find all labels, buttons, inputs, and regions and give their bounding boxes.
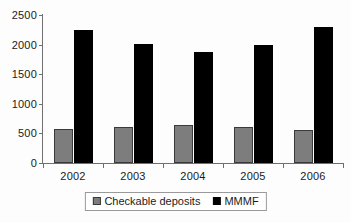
bar xyxy=(254,45,273,163)
y-tick-mark xyxy=(39,104,43,105)
bar xyxy=(314,27,333,163)
x-axis-line xyxy=(42,163,344,164)
bar xyxy=(234,127,253,163)
legend-swatch-icon xyxy=(92,197,100,205)
bar xyxy=(294,130,313,163)
x-tick-mark xyxy=(103,163,104,168)
bar xyxy=(194,52,213,163)
y-tick-mark xyxy=(39,45,43,46)
y-tick-label: 0 xyxy=(31,157,37,169)
y-tick-label: 500 xyxy=(18,127,37,139)
x-tick-label: 2006 xyxy=(300,170,325,182)
x-tick-label: 2004 xyxy=(180,170,205,182)
x-tick-mark xyxy=(223,163,224,168)
bar-chart: 05001000150020002500 2002200320042005200… xyxy=(0,0,351,223)
x-tick-label: 2005 xyxy=(240,170,265,182)
y-tick-label: 2500 xyxy=(12,9,37,21)
bar xyxy=(74,30,93,163)
legend-swatch-icon xyxy=(212,197,220,205)
y-tick-mark xyxy=(39,74,43,75)
plot-area xyxy=(43,15,343,163)
legend-label: MMMF xyxy=(224,195,258,207)
bar-group xyxy=(43,15,103,163)
y-tick-mark xyxy=(39,15,43,16)
bar xyxy=(54,129,73,163)
bar-group xyxy=(163,15,223,163)
x-tick-label: 2003 xyxy=(120,170,145,182)
x-tick-mark xyxy=(283,163,284,168)
legend-item: MMMF xyxy=(212,195,258,207)
bar-group xyxy=(223,15,283,163)
x-tick-mark xyxy=(343,163,344,168)
y-tick-mark xyxy=(39,133,43,134)
bar xyxy=(134,44,153,163)
bar xyxy=(174,125,193,163)
legend-label: Checkable deposits xyxy=(104,195,200,207)
y-tick-label: 1500 xyxy=(12,68,37,80)
bar-group xyxy=(283,15,343,163)
bar-group xyxy=(103,15,163,163)
x-tick-mark xyxy=(43,163,44,168)
y-tick-label: 2000 xyxy=(12,39,37,51)
x-tick-label: 2002 xyxy=(60,170,85,182)
y-tick-label: 1000 xyxy=(12,98,37,110)
x-tick-mark xyxy=(163,163,164,168)
legend: Checkable depositsMMMF xyxy=(84,192,266,211)
bar xyxy=(114,127,133,163)
legend-item: Checkable deposits xyxy=(92,195,200,207)
